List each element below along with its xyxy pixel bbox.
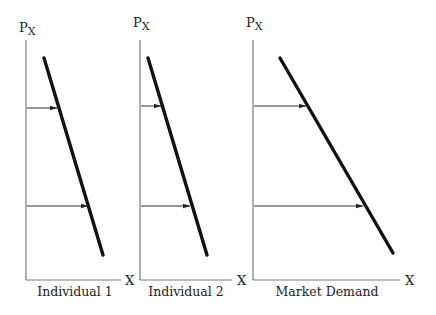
x-axis-label: X (237, 273, 247, 288)
y-axis-label: PX (19, 20, 36, 38)
demand-curve (44, 58, 103, 255)
panel-individual-1: PX X Individual 1 (19, 20, 135, 299)
x-axis-label: X (405, 273, 415, 288)
y-axis-label: PX (246, 15, 263, 33)
x-axis-label: X (125, 273, 135, 288)
panel-individual-2: PX X Individual 2 (133, 15, 247, 299)
y-axis-label: PX (133, 15, 150, 33)
demand-curve (148, 58, 207, 255)
demand-curve (280, 58, 393, 253)
panel-caption: Individual 1 (37, 284, 112, 299)
panel-caption: Individual 2 (148, 284, 223, 299)
demand-summation-diagram: PX X Individual 1 PX X Individual 2 PX X… (0, 0, 436, 315)
panel-caption: Market Demand (276, 284, 379, 299)
panel-market-demand: PX X Market Demand (246, 15, 415, 299)
